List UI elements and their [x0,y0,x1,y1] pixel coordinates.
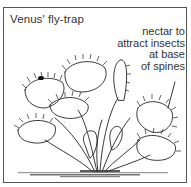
venus-flytrap-illustration [0,0,191,187]
ground-texture [18,170,168,177]
fly-icon [38,76,44,80]
annotation-leader-line [168,82,175,108]
